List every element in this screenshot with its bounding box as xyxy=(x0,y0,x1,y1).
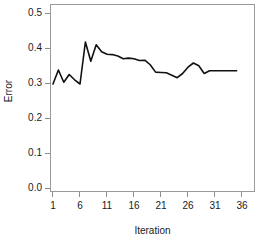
x-tick-label: 26 xyxy=(176,200,200,212)
x-tick-mark xyxy=(133,192,134,197)
x-tick-mark xyxy=(187,192,188,197)
y-tick-mark xyxy=(45,13,50,14)
x-tick-label: 31 xyxy=(203,200,227,212)
x-tick-label: 6 xyxy=(68,200,92,212)
y-tick-mark xyxy=(45,153,50,154)
x-tick-label: 16 xyxy=(122,200,146,212)
error-vs-iteration-chart: 0.00.10.20.30.40.5 16111621263136 Error … xyxy=(0,0,266,250)
y-axis-title: Error xyxy=(3,61,15,121)
x-tick-mark xyxy=(241,192,242,197)
x-axis-title: Iteration xyxy=(50,225,255,237)
x-tick-label: 21 xyxy=(149,200,173,212)
y-tick-label: 0.3 xyxy=(28,77,42,89)
y-tick-mark xyxy=(45,118,50,119)
x-tick-label: 36 xyxy=(230,200,254,212)
y-tick-mark xyxy=(45,83,50,84)
x-tick-label: 11 xyxy=(95,200,119,212)
x-tick-label: 1 xyxy=(41,200,65,212)
x-tick-mark xyxy=(214,192,215,197)
x-tick-mark xyxy=(79,192,80,197)
y-tick-label: 0.2 xyxy=(28,112,42,124)
x-tick-mark xyxy=(106,192,107,197)
error-series-line xyxy=(53,42,237,84)
y-tick-mark xyxy=(45,188,50,189)
y-tick-mark xyxy=(45,48,50,49)
x-tick-mark xyxy=(160,192,161,197)
y-tick-label: 0.4 xyxy=(28,42,42,54)
y-tick-label: 0.5 xyxy=(28,7,42,19)
x-tick-mark xyxy=(52,192,53,197)
y-tick-label: 0.1 xyxy=(28,147,42,159)
x-axis: 16111621263136 xyxy=(0,192,266,222)
plot-area xyxy=(50,4,255,192)
